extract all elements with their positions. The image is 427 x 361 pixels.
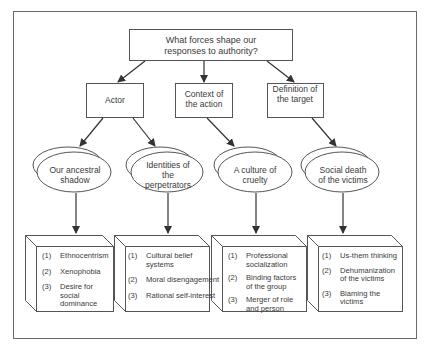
list-item: (2)Xenophobia	[42, 268, 112, 277]
list-item: (3)Desire for social dominance	[42, 283, 112, 309]
list-social: (1)Us-them thinking (2)Dehumanization of…	[322, 252, 400, 313]
list-item: (1)Cultural belief systems	[128, 252, 210, 269]
list-culture: (1)Professional socialization (2)Binding…	[228, 252, 304, 319]
factor-actor: Actor	[87, 95, 143, 105]
list-item: (3)Merger of role and person	[228, 296, 304, 313]
list-item: (2)Moral disengagement	[128, 276, 210, 285]
list-item: (1)Us-them thinking	[322, 252, 400, 261]
subfactor-social: Social death of the victims	[315, 165, 371, 185]
root-question: What forces shape our responses to autho…	[150, 35, 272, 57]
subfactor-ancestral: Our ancestral shadow	[47, 165, 103, 185]
list-item: (2)Dehumanization of the victims	[322, 267, 400, 284]
list-item: (2)Binding factors of the group	[228, 274, 304, 291]
factor-context: Context of the action	[181, 89, 227, 109]
subfactor-culture: A culture of cruelty	[230, 165, 280, 185]
factor-definition: Definition of the target	[272, 84, 318, 104]
list-ancestral: (1)Ethnocentrism (2)Xenophobia (3)Desire…	[42, 252, 112, 316]
subfactor-identities: Identities of the perpetrators	[143, 160, 193, 190]
list-item: (3)Rational self-interest	[128, 292, 210, 301]
list-item: (1)Ethnocentrism	[42, 252, 112, 261]
list-item: (1)Professional socialization	[228, 252, 304, 269]
list-item: (3)Blaming the victims	[322, 290, 400, 307]
list-identities: (1)Cultural belief systems (2)Moral dise…	[128, 252, 210, 307]
